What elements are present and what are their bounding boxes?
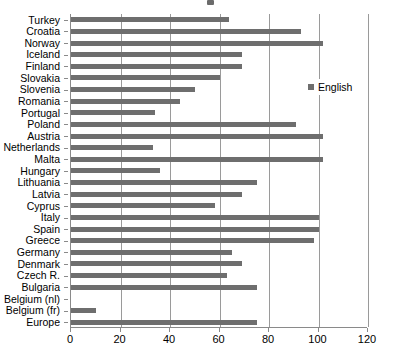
bar [71,134,323,139]
y-axis-label: Belgium (nl) [0,293,64,305]
bar-row [71,107,367,119]
x-axis-tick-label: 60 [212,333,224,345]
y-axis-label: Spain [0,223,64,235]
bar-row [71,293,367,305]
y-axis-label: Romania [0,95,64,107]
bar [71,192,242,197]
y-axis-label: Lithuania [0,177,64,189]
y-axis-label: Poland [0,119,64,131]
x-axis-tick [70,328,71,332]
bar [71,285,257,290]
x-axis-tick-label: 0 [67,333,73,345]
bar [71,75,220,80]
bar [71,320,257,325]
x-axis-tick [268,328,269,332]
bar [71,203,215,208]
y-axis-tick [64,241,68,242]
bar-row [71,14,367,26]
bar [71,52,242,57]
y-axis-tick [64,252,68,253]
bar-row [71,200,367,212]
bar [71,99,180,104]
y-axis-tick [64,171,68,172]
bar [71,145,153,150]
gridline [368,14,369,327]
bar-row [71,223,367,235]
bar [71,29,301,34]
y-axis-label: Hungary [0,165,64,177]
bar [71,64,242,69]
bar-row [71,305,367,317]
bar-chart: TurkeyCroatiaNorwayIcelandFinlandSlovaki… [0,0,393,352]
bar-row [71,61,367,73]
bar [71,238,314,243]
y-axis-label: Slovenia [0,84,64,96]
bar-row [71,316,367,328]
bar [71,273,227,278]
bar [71,87,195,92]
bar-row [71,154,367,166]
bar [71,227,319,232]
x-axis-tick [219,328,220,332]
bar [71,261,242,266]
bar-row [71,165,367,177]
y-axis-label: Bulgaria [0,281,64,293]
y-axis-label: Greece [0,235,64,247]
bar-row [71,130,367,142]
bar [71,180,257,185]
x-axis: 020406080100120 [70,328,367,352]
y-axis-label: Cyprus [0,200,64,212]
y-axis-label: Europe [0,316,64,328]
y-axis-tick [64,218,68,219]
bar [71,250,232,255]
y-axis-tick [64,194,68,195]
x-axis-tick-label: 80 [262,333,274,345]
bar [71,308,96,313]
y-axis-label: Netherlands [0,142,64,154]
legend-swatch-icon [308,84,314,90]
y-axis-tick [64,264,68,265]
y-axis-tick [64,78,68,79]
bar-row [71,37,367,49]
y-axis-tick [64,287,68,288]
x-axis-tick-label: 40 [163,333,175,345]
y-axis-label: Italy [0,212,64,224]
y-axis-tick [64,101,68,102]
bar-row [71,177,367,189]
bar-row [71,188,367,200]
y-axis-label: Germany [0,247,64,259]
legend-label: English [318,81,352,93]
bar-row [71,258,367,270]
y-axis-label: Malta [0,154,64,166]
y-axis-label: Austria [0,130,64,142]
y-axis-tick [64,90,68,91]
x-axis-tick [367,328,368,332]
y-axis-tick [64,276,68,277]
y-axis-label: Norway [0,37,64,49]
bar-row [71,119,367,131]
y-axis-label: Denmark [0,258,64,270]
bar-row [71,281,367,293]
y-axis-category-labels: TurkeyCroatiaNorwayIcelandFinlandSlovaki… [0,14,64,328]
y-axis-tick [64,31,68,32]
y-axis-tick [64,148,68,149]
bar-rows [71,14,367,327]
y-axis-label: Turkey [0,14,64,26]
y-axis-label: Iceland [0,49,64,61]
y-axis-tick [64,124,68,125]
bar [71,122,296,127]
y-axis-label: Czech R. [0,270,64,282]
x-axis-tick [120,328,121,332]
x-axis-tick-label: 100 [308,333,326,345]
y-axis-tick [64,183,68,184]
top-artifact-mark [207,0,214,5]
bar-row [71,270,367,282]
y-axis-label: Slovakia [0,72,64,84]
bar-row [71,49,367,61]
y-axis-tick [64,229,68,230]
y-axis-tick [64,159,68,160]
bar-row [71,26,367,38]
y-axis-label: Croatia [0,26,64,38]
x-axis-tick-label: 20 [113,333,125,345]
y-axis-label: Belgium (fr) [0,305,64,317]
